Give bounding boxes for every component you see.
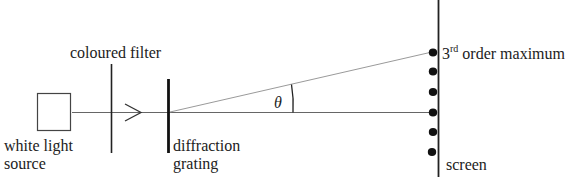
maximum-dot: [429, 88, 437, 96]
third-order-maximum-label: 3rd order maximum: [442, 45, 565, 63]
light-source-box: [38, 94, 71, 131]
screen-label: screen: [446, 156, 487, 174]
order-text: order maximum: [458, 45, 565, 62]
maximum-dot: [429, 109, 437, 117]
diffracted-ray: [170, 52, 432, 112]
angle-arc: [292, 85, 294, 113]
maximum-dot: [428, 148, 436, 156]
light-source-label-line1: white light: [4, 137, 73, 155]
light-source-label-line2: source: [4, 155, 46, 173]
maximum-dot: [429, 68, 437, 76]
coloured-filter-label: coloured filter: [70, 44, 161, 62]
maximum-dot: [429, 128, 437, 136]
maximum-dot: [429, 49, 437, 57]
grating-label-line1: diffraction: [173, 137, 240, 155]
angle-theta-label: θ: [274, 94, 282, 112]
grating-label-line2: grating: [173, 155, 218, 173]
order-number: 3: [442, 45, 450, 62]
